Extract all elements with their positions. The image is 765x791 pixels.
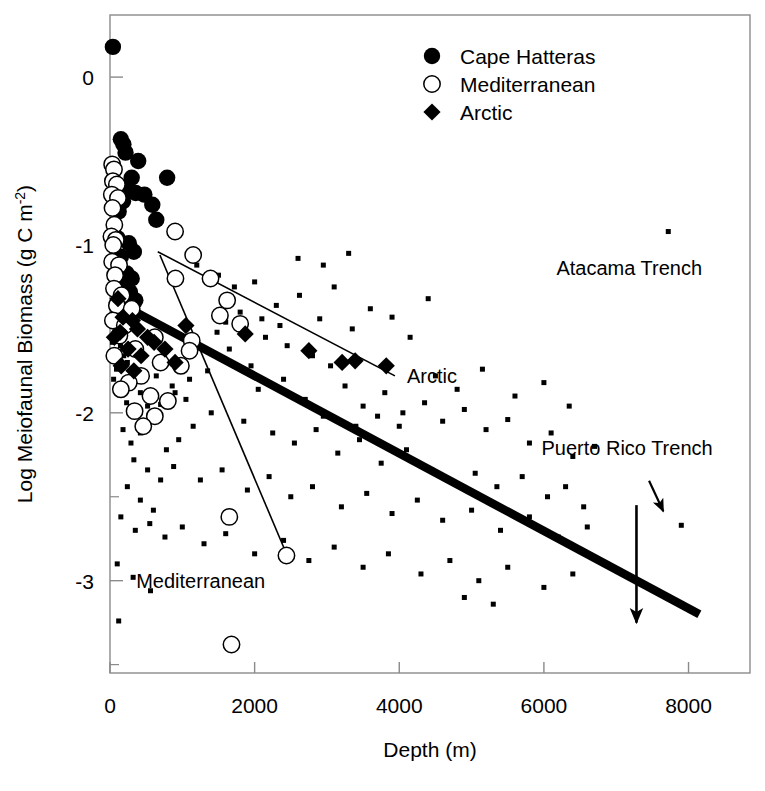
point-open-circle — [167, 223, 183, 239]
point-small-square — [270, 430, 275, 435]
point-small-square — [339, 504, 344, 509]
point-small-square — [422, 400, 427, 405]
point-filled-circle — [148, 212, 164, 228]
point-small-square — [241, 419, 246, 424]
point-small-square — [390, 315, 395, 320]
point-small-square — [361, 565, 366, 570]
point-small-square — [462, 407, 467, 412]
point-small-square — [400, 410, 405, 415]
legend-label-cape-hatteras: Cape Hatteras — [460, 45, 595, 68]
annotation-label-puerto-rico-trench: Puerto Rico Trench — [541, 437, 712, 459]
point-open-circle — [219, 292, 235, 308]
point-filled-diamond — [423, 103, 440, 120]
point-open-circle — [221, 509, 237, 525]
point-small-square — [145, 467, 150, 472]
point-small-square — [249, 363, 254, 368]
point-small-square — [138, 498, 143, 503]
x-tick-label: 8000 — [665, 694, 712, 717]
point-open-circle — [424, 76, 440, 92]
annotation-arrow-puerto-rico-trench — [649, 481, 663, 512]
x-axis-ticks — [110, 662, 689, 673]
point-small-square — [541, 380, 546, 385]
trend-label-mediterranean-regression: Mediterranean — [136, 570, 265, 592]
point-small-square — [252, 279, 257, 284]
legend-item-mediterranean: Mediterranean — [424, 73, 596, 96]
point-small-square — [151, 508, 156, 513]
point-small-square — [180, 524, 185, 529]
point-small-square — [238, 310, 243, 315]
point-small-square — [505, 565, 510, 570]
point-open-circle — [142, 388, 158, 404]
point-small-square — [131, 575, 136, 580]
point-small-square — [263, 335, 268, 340]
point-small-square — [158, 477, 163, 482]
point-filled-circle — [144, 196, 160, 212]
series-points — [103, 39, 395, 653]
point-small-square — [332, 284, 337, 289]
point-small-square — [121, 427, 126, 432]
point-small-square — [408, 335, 413, 340]
point-open-circle — [185, 247, 201, 263]
point-small-square — [252, 551, 257, 556]
point-small-square — [426, 296, 431, 301]
point-small-square — [277, 323, 282, 328]
point-small-square — [162, 535, 167, 540]
point-small-square — [116, 618, 121, 623]
point-small-square — [147, 521, 152, 526]
y-axis-title: Log Meiofaunal Biomass (g C m-2) — [12, 185, 36, 503]
point-small-square — [198, 477, 203, 482]
point-small-square — [267, 474, 272, 479]
point-small-square — [418, 571, 423, 576]
y-tick-label: -3 — [75, 570, 94, 593]
point-small-square — [281, 377, 286, 382]
point-small-square — [545, 494, 550, 499]
point-small-square — [386, 551, 391, 556]
x-tick-label: 2000 — [231, 694, 278, 717]
point-small-square — [679, 523, 684, 528]
point-small-square — [288, 494, 293, 499]
point-small-square — [176, 437, 181, 442]
point-small-square — [512, 394, 517, 399]
point-small-square — [541, 585, 546, 590]
point-small-square — [124, 400, 129, 405]
point-open-circle — [278, 547, 294, 563]
point-small-square — [520, 474, 525, 479]
point-small-square — [245, 488, 250, 493]
point-small-square — [390, 511, 395, 516]
point-small-square — [328, 363, 333, 368]
point-small-square — [314, 427, 319, 432]
point-small-square — [227, 347, 232, 352]
x-axis-title: Depth (m) — [383, 738, 476, 761]
point-small-square — [469, 508, 474, 513]
point-filled-diamond — [347, 352, 364, 369]
x-tick-label: 0 — [104, 694, 116, 717]
point-small-square — [346, 251, 351, 256]
point-small-square — [491, 602, 496, 607]
legend-label-mediterranean: Mediterranean — [460, 73, 595, 96]
point-small-square — [232, 284, 237, 289]
point-small-square — [202, 541, 207, 546]
point-small-square — [505, 417, 510, 422]
point-small-square — [223, 531, 228, 536]
point-open-circle — [160, 393, 176, 409]
point-open-circle — [181, 343, 197, 359]
point-filled-circle — [105, 39, 121, 55]
point-small-square — [462, 595, 467, 600]
point-small-square — [350, 326, 355, 331]
point-small-square — [285, 343, 290, 348]
legend-item-cape-hatteras: Cape Hatteras — [424, 45, 596, 68]
point-filled-circle — [159, 170, 175, 186]
point-small-square — [361, 404, 366, 409]
point-small-square — [473, 471, 478, 476]
point-small-square — [292, 441, 297, 446]
y-tick-label: -2 — [75, 402, 94, 425]
y-axis-title-superscript: -2 — [12, 192, 28, 205]
point-small-square — [397, 424, 402, 429]
legend: Cape HatterasMediterraneanArctic — [423, 45, 595, 124]
y-tick-label: 0 — [82, 66, 94, 89]
y-tick-label: -1 — [75, 234, 94, 257]
point-small-square — [306, 558, 311, 563]
point-small-square — [494, 484, 499, 489]
point-small-square — [498, 528, 503, 533]
point-small-square — [187, 377, 192, 382]
